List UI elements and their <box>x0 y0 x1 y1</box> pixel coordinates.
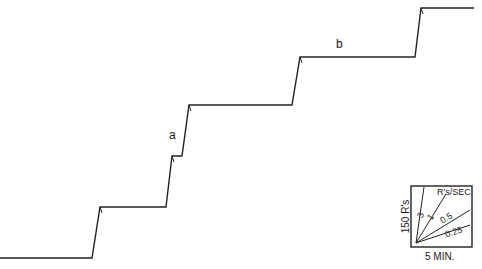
pen-reset-mark <box>300 57 302 63</box>
rate-header-label: R's/SEC <box>437 187 471 197</box>
annotation-b: b <box>336 37 343 51</box>
annotation-a: a <box>169 128 176 142</box>
pen-reset-mark <box>100 207 102 213</box>
x-scale-label: 5 MIN. <box>425 251 454 262</box>
y-scale-label: 150 R's <box>400 193 411 241</box>
pen-reset-mark <box>189 105 191 111</box>
